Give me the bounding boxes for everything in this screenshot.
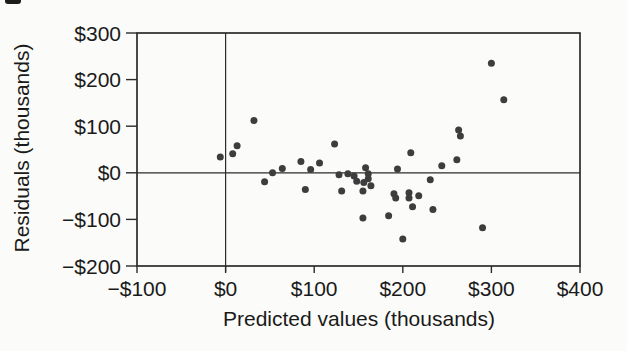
data-point <box>385 212 392 219</box>
y-tick-label: −$200 <box>62 255 121 278</box>
data-point <box>302 186 309 193</box>
data-point <box>234 142 241 149</box>
x-tick-label: −$100 <box>108 277 167 300</box>
plot-frame <box>137 33 580 266</box>
data-point <box>427 176 434 183</box>
data-point <box>331 140 338 147</box>
data-point <box>365 175 372 182</box>
residual-scatter-figure: Residuals (thousands) Predicted values (… <box>0 0 627 351</box>
x-tick-label: $400 <box>557 277 604 300</box>
data-point <box>367 182 374 189</box>
x-tick-label: $0 <box>214 277 237 300</box>
data-point <box>336 171 343 178</box>
data-point <box>455 126 462 133</box>
y-tick-label: $0 <box>98 161 121 184</box>
data-point <box>392 194 399 201</box>
x-tick-label: $100 <box>291 277 338 300</box>
data-point <box>438 162 445 169</box>
x-tick-label: $300 <box>468 277 515 300</box>
data-point <box>316 160 323 167</box>
scatter-plot-canvas: −$100$0$100$200$300$400$300$200$100$0−$1… <box>0 0 627 351</box>
data-point <box>453 156 460 163</box>
data-point <box>399 235 406 242</box>
y-tick-label: $300 <box>74 22 121 45</box>
data-point <box>297 158 304 165</box>
y-tick-label: $200 <box>74 68 121 91</box>
data-point <box>479 224 486 231</box>
data-point <box>457 132 464 139</box>
data-point <box>250 117 257 124</box>
x-tick-label: $200 <box>379 277 426 300</box>
data-point <box>362 164 369 171</box>
data-point <box>344 170 351 177</box>
data-point <box>409 203 416 210</box>
data-point <box>307 166 314 173</box>
data-point <box>338 187 345 194</box>
data-point <box>217 153 224 160</box>
data-point <box>359 215 366 222</box>
data-point <box>261 178 268 185</box>
data-point <box>394 166 401 173</box>
data-point <box>229 150 236 157</box>
data-point <box>429 206 436 213</box>
data-point <box>359 187 366 194</box>
y-tick-label: $100 <box>74 115 121 138</box>
y-tick-label: −$100 <box>62 208 121 231</box>
data-point <box>488 60 495 67</box>
data-point <box>269 169 276 176</box>
data-point <box>500 96 507 103</box>
data-point <box>353 178 360 185</box>
data-point <box>407 149 414 156</box>
data-point <box>279 165 286 172</box>
data-point <box>406 194 413 201</box>
data-point <box>415 192 422 199</box>
